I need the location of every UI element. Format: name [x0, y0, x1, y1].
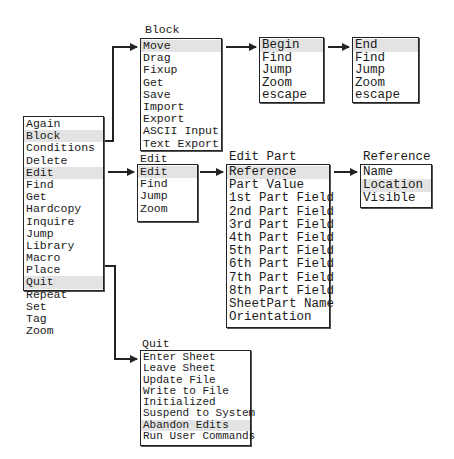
edit-part-item-6th-field[interactable]: 6th Part Field — [227, 258, 329, 271]
block-item-get[interactable]: Get — [141, 77, 221, 89]
quit-menu-title: Quit — [142, 338, 170, 350]
main-item-repeat[interactable]: Repeat — [24, 289, 103, 301]
reference-menu-title: Reference — [363, 151, 431, 163]
edit-part-item-7th-field[interactable]: 7th Part Field — [227, 272, 329, 285]
begin-item-escape[interactable]: escape — [260, 89, 323, 102]
main-item-delete[interactable]: Delete — [24, 155, 103, 167]
main-item-quit[interactable]: Quit — [24, 276, 103, 288]
reference-item-visible[interactable]: Visible — [361, 192, 431, 205]
block-item-fixup[interactable]: Fixup — [141, 64, 221, 76]
edit-item-jump[interactable]: Jump — [138, 190, 197, 202]
main-item-conditions[interactable]: Conditions — [24, 142, 103, 154]
edit-part-menu: Reference Part Value 1st Part Field 2nd … — [226, 164, 330, 328]
edit-part-item-orientation[interactable]: Orientation — [227, 311, 329, 324]
edit-part-item-2nd-field[interactable]: 2nd Part Field — [227, 206, 329, 219]
edit-item-zoom[interactable]: Zoom — [138, 203, 197, 215]
block-menu-title: Block — [145, 24, 180, 36]
block-item-ascii-input[interactable]: ASCII Input — [141, 125, 221, 137]
edit-menu: Edit Find Jump Zoom — [137, 164, 198, 222]
end-item-escape[interactable]: escape — [353, 89, 418, 102]
end-item-jump[interactable]: Jump — [353, 64, 418, 77]
edit-part-item-8th-field[interactable]: 8th Part Field — [227, 285, 329, 298]
begin-item-jump[interactable]: Jump — [260, 64, 323, 77]
end-item-end[interactable]: End — [353, 39, 418, 52]
block-menu: Move Drag Fixup Get Save Import Export A… — [140, 38, 222, 151]
edit-part-item-1st-field[interactable]: 1st Part Field — [227, 192, 329, 205]
arrow-block — [103, 47, 137, 141]
arrow-quit — [103, 266, 137, 359]
begin-item-begin[interactable]: Begin — [260, 39, 323, 52]
edit-part-menu-title: Edit Part — [229, 151, 297, 163]
edit-part-item-3rd-field[interactable]: 3rd Part Field — [227, 219, 329, 232]
quit-item-run-user-commands[interactable]: Run User Commands — [141, 431, 250, 442]
block-item-text-export[interactable]: Text Export — [141, 138, 221, 150]
end-menu: End Find Jump Zoom escape — [352, 37, 419, 103]
main-item-hardcopy[interactable]: Hardcopy — [24, 203, 103, 215]
quit-item-leave-sheet[interactable]: Leave Sheet — [141, 363, 250, 374]
main-menu: Again Block Conditions Delete Edit Find … — [23, 116, 104, 291]
main-item-inquire[interactable]: Inquire — [24, 216, 103, 228]
quit-menu: Enter Sheet Leave Sheet Update File Writ… — [140, 350, 251, 446]
main-item-zoom[interactable]: Zoom — [24, 325, 103, 337]
reference-menu: Name Location Visible — [360, 164, 432, 208]
begin-menu: Begin Find Jump Zoom escape — [259, 37, 324, 103]
